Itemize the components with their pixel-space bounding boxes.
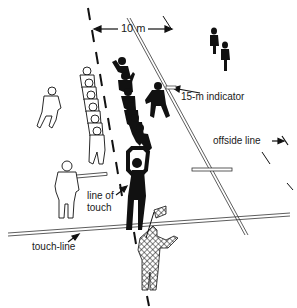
line-of-touch-label-1: line of — [87, 190, 114, 201]
line-of-touch-label-2: touch — [87, 202, 111, 213]
touch-line-label: touch-line — [32, 241, 75, 252]
lineout-diagram: 10 m 15-m indicator offside line line of… — [0, 0, 297, 308]
offside-line-dashed — [163, 16, 293, 190]
cross-marker — [192, 168, 232, 171]
distance-label: 10 m — [121, 23, 145, 34]
indicator-label: 15-m indicator — [181, 91, 244, 102]
black-team — [112, 57, 170, 230]
line-of-touch-dashed — [88, 8, 149, 306]
distant-players — [210, 28, 230, 72]
offside-label: offside line — [213, 135, 261, 146]
touch-judge — [138, 206, 178, 290]
diagram-artwork — [0, 0, 297, 308]
offside-arrow — [272, 136, 288, 145]
